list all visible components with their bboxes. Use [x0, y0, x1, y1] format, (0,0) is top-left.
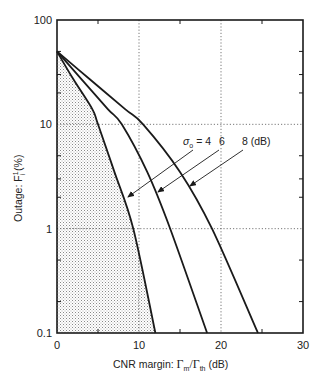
y-tick-label: 100: [34, 14, 52, 26]
sigma-annotation-6: 6: [219, 135, 225, 147]
sigma-annotation-4: σo = 4: [183, 135, 211, 149]
outage-chart: 01020300.1110100 σo = 4 6 8 (dB) CNR mar…: [0, 0, 323, 388]
annotation-arrow: [190, 150, 243, 186]
y-tick-label: 1: [46, 223, 52, 235]
sigma-annotation-8: 8 (dB): [242, 135, 271, 147]
x-tick-label: 10: [133, 339, 145, 351]
y-tick-label: 10: [40, 118, 52, 130]
y-axis-title: Outage: F1i (%): [12, 155, 26, 222]
annotation-arrows: [128, 150, 243, 197]
x-tick-label: 30: [297, 339, 309, 351]
x-axis-title: CNR margin: Γm/Γth (dB): [113, 357, 228, 372]
y-tick-label: 0.1: [37, 327, 52, 339]
x-tick-label: 20: [215, 339, 227, 351]
x-tick-label: 0: [54, 339, 60, 351]
